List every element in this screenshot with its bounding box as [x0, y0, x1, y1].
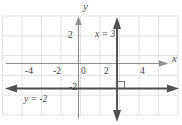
- x-tick-label-zero: 0: [81, 67, 86, 77]
- y-tick-label-neg2: -2: [69, 83, 77, 93]
- label-x-equals-3: x = 3: [95, 30, 115, 40]
- x-tick-label-4: 4: [140, 67, 145, 77]
- coordinate-plane-svg: [0, 0, 182, 125]
- y-tick-label-2: 2: [68, 31, 73, 41]
- label-y-equals-minus-2: y = -2: [24, 95, 47, 105]
- x-tick-label-neg4: -4: [25, 67, 33, 77]
- graph-figure: y x -4 -2 0 2 4 2 -2 x = 3 y = -2: [0, 0, 182, 125]
- plot-line-y-equals-minus-2: [5, 85, 179, 93]
- right-angle-icon: [117, 82, 125, 89]
- x-tick-label-2: 2: [104, 67, 109, 77]
- x-tick-label-neg2: -2: [53, 67, 61, 77]
- x-axis-label: x: [172, 53, 177, 64]
- y-axis-label: y: [83, 1, 88, 12]
